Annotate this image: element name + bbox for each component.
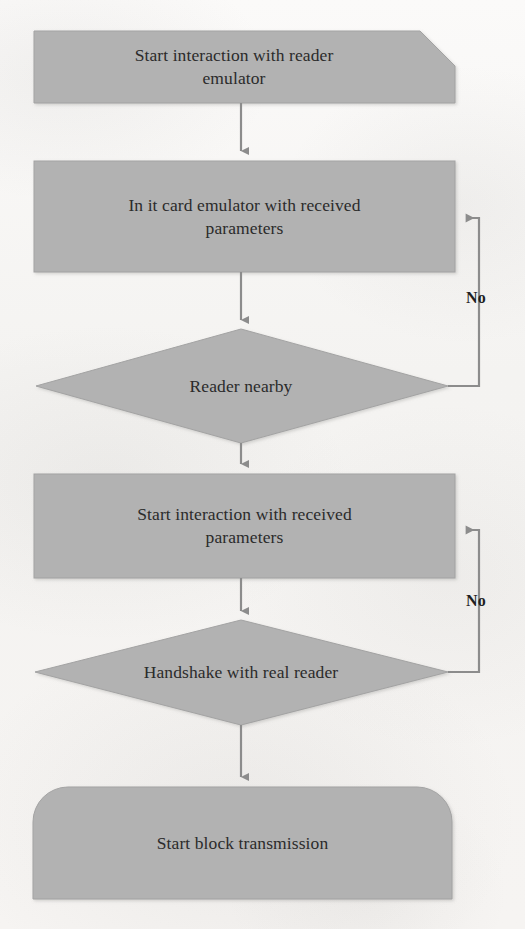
diamond-shape bbox=[35, 620, 448, 725]
node-start-block-transmission bbox=[33, 787, 452, 899]
node-handshake-real-reader bbox=[35, 620, 448, 725]
node-start-interaction-received-parameters bbox=[34, 474, 455, 578]
diamond-shape bbox=[36, 329, 448, 443]
rectangle-shape bbox=[34, 474, 455, 578]
rounded-top-box-shape bbox=[33, 787, 452, 899]
edge-label-no-handshake: No bbox=[466, 592, 486, 610]
node-init-card-emulator bbox=[34, 161, 455, 272]
node-reader-nearby bbox=[36, 329, 448, 443]
flowchart-page: Start interaction with reader emulator I… bbox=[0, 0, 525, 929]
rectangle-shape bbox=[34, 161, 455, 272]
edge-label-no-reader-nearby: No bbox=[466, 289, 486, 307]
node-start-interaction-reader-emulator bbox=[34, 31, 455, 103]
clipped-corner-box-shape bbox=[34, 31, 455, 103]
flowchart-canvas bbox=[0, 0, 525, 929]
